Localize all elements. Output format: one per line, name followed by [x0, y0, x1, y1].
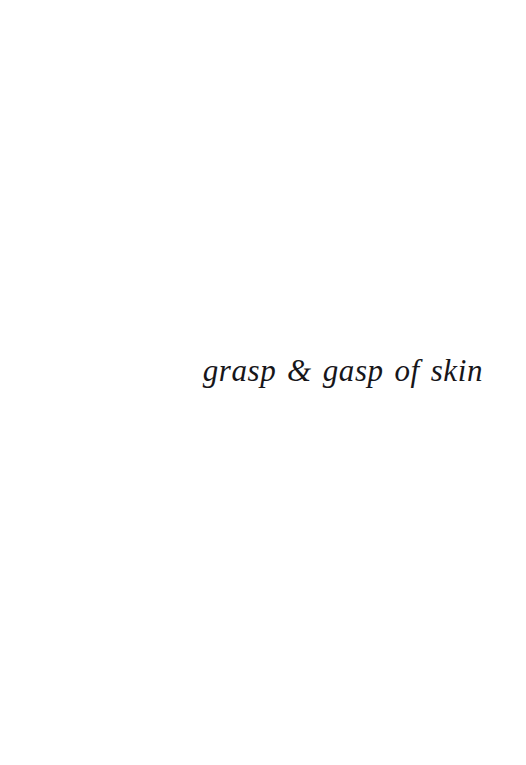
page-title: grasp & gasp of skin — [203, 355, 483, 386]
page-surface: grasp & gasp of skin — [0, 0, 526, 765]
title-block: grasp & gasp of skin — [0, 355, 483, 386]
